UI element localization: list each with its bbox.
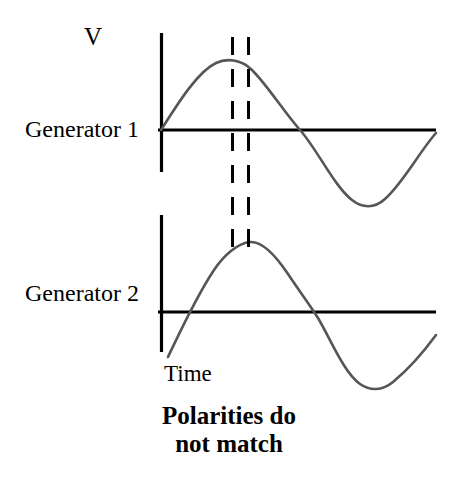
caption-line-2: not match [0, 430, 458, 458]
caption-line-1: Polarities do [0, 402, 458, 430]
waveform-figure: V Generator 1 Generator 2 Time Polaritie… [0, 0, 458, 492]
generator-2-label: Generator 2 [25, 281, 139, 305]
alignment-markers [233, 37, 249, 250]
generator-1-plot [158, 33, 436, 206]
y-axis-label-v: V [84, 24, 102, 49]
generator-1-waveform [161, 60, 436, 206]
generator-1-label: Generator 1 [25, 117, 139, 141]
x-axis-label-time: Time [164, 362, 212, 385]
figure-caption: Polarities do not match [0, 402, 458, 458]
